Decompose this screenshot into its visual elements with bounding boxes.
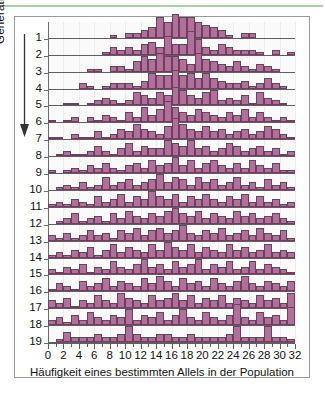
histogram-bar xyxy=(102,115,110,123)
histogram-bar xyxy=(156,53,164,71)
histogram-bar xyxy=(164,101,172,122)
histogram-bar xyxy=(187,73,195,89)
histogram-bar xyxy=(156,196,164,206)
histogram-bar xyxy=(156,17,164,38)
histogram-bar xyxy=(125,233,133,241)
histogram-bar xyxy=(272,199,280,207)
histogram-bar xyxy=(79,182,87,190)
x-axis-minor-tick xyxy=(226,344,227,347)
histogram-bar xyxy=(94,334,102,342)
histogram-bar xyxy=(148,131,156,139)
histogram-bar xyxy=(141,81,149,89)
histogram-bar xyxy=(102,250,110,258)
histogram-bar xyxy=(264,281,272,291)
histogram-bar xyxy=(117,281,125,291)
histogram-bar xyxy=(210,233,218,241)
histogram-bar xyxy=(148,295,156,308)
histogram-bar xyxy=(125,298,133,308)
histogram-bar xyxy=(172,177,180,190)
histogram-bar xyxy=(71,315,79,325)
histogram-bar xyxy=(256,250,264,258)
histogram-bar xyxy=(280,182,288,190)
histogram-bar xyxy=(63,267,71,275)
histogram-bar xyxy=(148,230,156,240)
histogram-bar xyxy=(233,211,241,224)
histogram-bar xyxy=(256,196,264,206)
histogram-bar xyxy=(102,300,110,308)
histogram-bar xyxy=(272,163,280,173)
histogram-bar xyxy=(133,250,141,258)
histogram-bar xyxy=(125,112,133,122)
histogram-bar xyxy=(256,92,264,105)
generation-row xyxy=(48,326,295,343)
histogram-bar xyxy=(125,165,133,173)
generation-row xyxy=(48,208,295,225)
histogram-bar xyxy=(195,98,203,106)
histogram-bar xyxy=(87,230,95,240)
histogram-bar xyxy=(141,129,149,139)
histogram-bar xyxy=(226,244,234,257)
y-axis-tick xyxy=(44,73,48,74)
histogram-bar xyxy=(172,143,180,156)
histogram-bars xyxy=(48,72,295,89)
histogram-bar xyxy=(48,300,56,308)
histogram-bar xyxy=(94,146,102,156)
histogram-bar xyxy=(148,98,156,106)
histogram-bar xyxy=(195,211,203,224)
histogram-bar xyxy=(179,179,187,189)
histogram-bar xyxy=(264,126,272,139)
y-axis-tick xyxy=(44,106,48,107)
histogram-bar xyxy=(249,283,257,291)
histogram-bar xyxy=(187,295,195,308)
generation-row xyxy=(48,309,295,326)
histogram-bar xyxy=(179,267,187,275)
histogram-bar xyxy=(287,307,295,325)
generation-row xyxy=(48,292,295,309)
histogram-bars xyxy=(48,325,295,342)
histogram-bar xyxy=(179,44,187,54)
y-axis-tick xyxy=(44,326,48,327)
histogram-bar xyxy=(117,230,125,240)
histogram-bar xyxy=(133,196,141,206)
y-axis-tick xyxy=(44,275,48,276)
histogram-bar xyxy=(148,191,156,207)
histogram-bar xyxy=(241,95,249,105)
histogram-bar xyxy=(141,30,149,38)
histogram-bar xyxy=(264,98,272,106)
histogram-bar xyxy=(71,250,79,258)
histogram-bar xyxy=(272,315,280,325)
histogram-bar xyxy=(164,242,172,258)
histogram-bar xyxy=(272,283,280,291)
y-axis-tick xyxy=(44,208,48,209)
histogram-bar xyxy=(233,199,241,207)
x-axis-minor-tick xyxy=(210,344,211,347)
histogram-bar xyxy=(241,300,249,308)
histogram-bar xyxy=(110,244,118,257)
histogram-bar xyxy=(241,247,249,257)
histogram-bar xyxy=(156,312,164,325)
histogram-bar xyxy=(202,247,210,257)
histogram-bar xyxy=(164,334,172,342)
histogram-bar xyxy=(94,131,102,139)
histogram-bar xyxy=(202,163,210,173)
histogram-bar xyxy=(172,87,180,105)
histogram-bar xyxy=(210,179,218,189)
histogram-bar xyxy=(87,247,95,257)
histogram-bar xyxy=(179,124,187,140)
y-axis-label: Generation xyxy=(0,0,6,44)
histogram-bar xyxy=(226,112,234,122)
histogram-bar xyxy=(125,131,133,139)
histogram-bar xyxy=(195,109,203,122)
histogram-bar xyxy=(226,261,234,274)
histogram-bar xyxy=(272,129,280,139)
histogram-bar xyxy=(202,25,210,38)
histogram-bar xyxy=(249,213,257,223)
histogram-bar xyxy=(172,293,180,309)
histogram-bar xyxy=(264,216,272,224)
histogram-bar xyxy=(125,283,133,291)
histogram-bar xyxy=(133,228,141,241)
histogram-bar xyxy=(187,115,195,123)
histogram-bar xyxy=(141,56,149,72)
y-axis-tick xyxy=(44,309,48,310)
y-axis-tick-label: 12 xyxy=(16,217,42,229)
